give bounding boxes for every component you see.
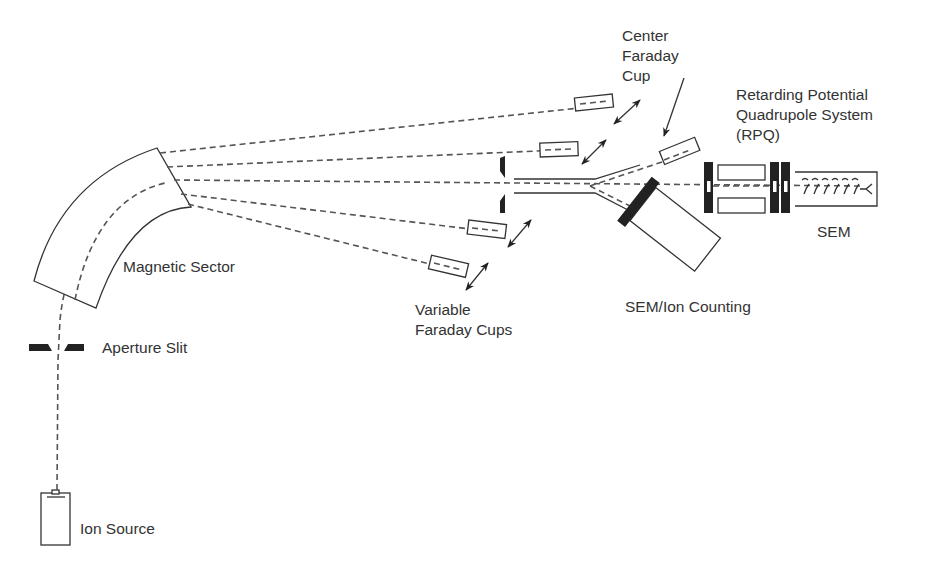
slit-jaw-right xyxy=(64,344,84,351)
label-rpq-line1: Retarding Potential xyxy=(736,86,868,103)
label-sem-ion-counting: SEM/Ion Counting xyxy=(625,298,751,315)
flight-tube-lower xyxy=(514,193,628,210)
flight-tube-upper xyxy=(514,165,640,179)
label-center-faraday-cup-line3: Cup xyxy=(622,67,650,84)
cup-move-arrow-l1 xyxy=(508,220,531,247)
beam-lower-1 xyxy=(181,194,495,232)
label-magnetic-sector: Magnetic Sector xyxy=(123,258,235,275)
sem-dynodes xyxy=(802,179,872,195)
collector-slit xyxy=(500,156,505,213)
aperture-slit xyxy=(29,344,84,351)
label-sem: SEM xyxy=(817,223,851,240)
label-center-faraday-cup-line1: Center xyxy=(622,27,669,44)
label-variable-faraday-cups-line2: Faraday Cups xyxy=(415,321,513,338)
ion-source-nozzle xyxy=(52,490,59,494)
cup-move-arrow-h1 xyxy=(614,100,640,124)
rpq-rod-upper xyxy=(718,165,765,180)
label-rpq-line2: Quadrupole System xyxy=(736,106,873,123)
center-cup-pointer-arrow xyxy=(664,78,684,136)
beam-upper-1 xyxy=(160,106,598,153)
ion-source-body xyxy=(41,493,70,545)
label-ion-source: Ion Source xyxy=(80,520,155,537)
mass-spectrometer-diagram: Ion Source Aperture Slit Magnetic Sector… xyxy=(0,0,927,565)
rpq-rod-lower xyxy=(718,198,765,213)
rpq-system xyxy=(704,162,790,213)
slit-jaw-left xyxy=(29,344,52,351)
sem-detector xyxy=(795,172,877,206)
magnetic-sector xyxy=(34,148,191,308)
center-faraday-cup xyxy=(659,137,699,164)
cup-move-arrow-l2 xyxy=(466,263,488,290)
label-center-faraday-cup-line2: Faraday xyxy=(622,47,679,64)
beam-axial xyxy=(174,180,860,186)
cup-move-arrow-h2 xyxy=(582,140,606,164)
label-aperture-slit: Aperture Slit xyxy=(102,339,188,356)
label-variable-faraday-cups-line1: Variable xyxy=(415,301,471,318)
label-rpq-line3: (RPQ) xyxy=(736,126,780,143)
ion-source xyxy=(41,490,70,545)
